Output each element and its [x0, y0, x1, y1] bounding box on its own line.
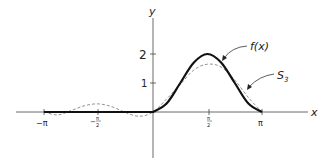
s3-label: S — [277, 69, 284, 82]
x-axis-label: x — [310, 106, 318, 119]
x-tick-label-neg-pi: −π — [36, 119, 48, 128]
svg-text:2: 2 — [96, 122, 99, 128]
fourier-chart: y x 2 1 −π − π 2 π 2 π f(x) S 3 — [0, 0, 328, 168]
fx-label: f(x) — [250, 40, 269, 53]
s3-label-subscript: 3 — [284, 76, 288, 84]
svg-text:π: π — [96, 115, 99, 121]
y-tick-label-2: 2 — [139, 48, 147, 62]
fx-leader-line — [224, 46, 247, 58]
x-tick-label-pi: π — [258, 119, 263, 128]
x-tick-label-neg-half-pi: − π 2 — [90, 115, 101, 128]
fx-arrowhead — [222, 55, 227, 61]
s3-leader-line — [249, 74, 274, 87]
y-axis-label: y — [148, 5, 156, 18]
y-tick-label-1: 1 — [141, 78, 147, 89]
svg-text:2: 2 — [207, 122, 210, 128]
x-tick-label-half-pi: π 2 — [207, 115, 212, 128]
svg-text:π: π — [207, 115, 210, 121]
